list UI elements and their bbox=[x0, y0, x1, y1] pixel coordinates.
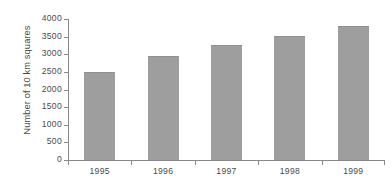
x-axis-tick-mark bbox=[258, 161, 259, 165]
y-axis-tick-label: 500 bbox=[47, 136, 62, 146]
bar bbox=[338, 26, 369, 160]
x-axis-tick-label: 1999 bbox=[322, 166, 385, 176]
x-axis-tick-mark bbox=[322, 161, 323, 165]
bar-chart: Number of 10 km squares 0500100015002000… bbox=[0, 0, 392, 186]
y-axis-tick-label: 1000 bbox=[42, 119, 62, 129]
x-axis-tick-mark bbox=[195, 161, 196, 165]
y-axis-tick-label: 0 bbox=[57, 154, 62, 164]
x-axis-tick-label: 1997 bbox=[195, 166, 258, 176]
y-axis-tick-label: 2000 bbox=[42, 84, 62, 94]
y-axis-tick-label: 3500 bbox=[42, 31, 62, 41]
x-axis-tick-mark bbox=[384, 161, 385, 165]
bar bbox=[274, 36, 305, 160]
bar bbox=[84, 72, 115, 160]
bar bbox=[211, 45, 242, 160]
x-axis-tick-label: 1995 bbox=[68, 166, 131, 176]
bar bbox=[148, 56, 179, 160]
y-axis-tick-label: 2500 bbox=[42, 66, 62, 76]
x-axis-tick-label: 1998 bbox=[258, 166, 321, 176]
y-axis-tick-label: 1500 bbox=[42, 101, 62, 111]
bars-layer bbox=[68, 19, 385, 160]
y-axis-title: Number of 10 km squares bbox=[20, 0, 34, 160]
x-axis-tick-label: 1996 bbox=[131, 166, 194, 176]
x-axis-labels: 19951996199719981999 bbox=[68, 166, 385, 180]
y-axis-tick-label: 4000 bbox=[42, 13, 62, 23]
y-axis-tick-label: 3000 bbox=[42, 48, 62, 58]
x-axis-tick-mark bbox=[68, 161, 69, 165]
x-axis-tick-mark bbox=[131, 161, 132, 165]
